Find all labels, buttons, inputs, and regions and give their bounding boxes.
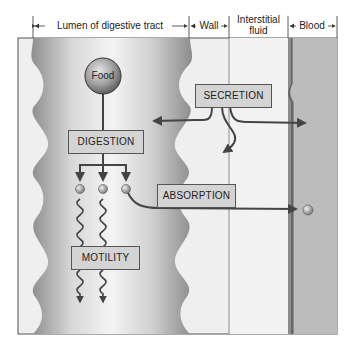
header-interstitial-label: Interstitial fluid <box>229 14 288 36</box>
absorbed-nutrient-sphere <box>303 205 313 215</box>
header-wall-label: Wall <box>197 20 221 31</box>
header-interstitial-line2: fluid <box>229 25 288 36</box>
header-lumen-label: Lumen of digestive tract <box>50 20 170 31</box>
absorption-box: ABSORPTION <box>157 184 236 208</box>
nutrient-sphere <box>122 185 131 194</box>
nutrient-sphere <box>76 185 85 194</box>
motility-box: MOTILITY <box>71 246 140 270</box>
header-blood-label: Blood <box>296 20 328 31</box>
digestion-box: DIGESTION <box>68 130 144 154</box>
header-interstitial-line1: Interstitial <box>229 14 288 25</box>
secretion-box: SECRETION <box>195 84 272 108</box>
digestive-processes-diagram: Lumen of digestive tract Wall Interstiti… <box>0 0 353 351</box>
food-label: Food <box>85 70 121 82</box>
nutrient-sphere <box>99 185 108 194</box>
